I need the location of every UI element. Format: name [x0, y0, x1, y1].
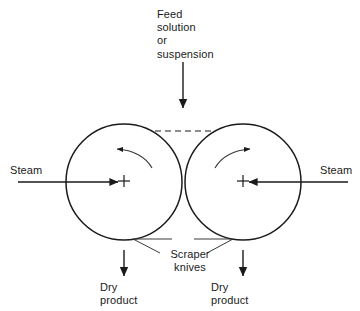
steam-right-label: Steam: [320, 164, 352, 177]
scraper-knives-label: Scraper knives: [160, 248, 220, 274]
steam-left-label: Steam: [10, 164, 42, 177]
left-drum-center-mark: [118, 175, 130, 187]
dry-product-right-label: Dry product: [211, 281, 248, 307]
dry-product-left-label: Dry product: [100, 281, 137, 307]
right-drum-center-mark: [237, 175, 249, 187]
left-drum-rotation-arrow: [117, 149, 152, 168]
scraper-leader-left: [133, 239, 160, 253]
drum-dryer-diagram: Feed solution or suspension Steam Steam …: [0, 0, 360, 311]
feed-label: Feed solution or suspension: [157, 8, 214, 61]
right-drum-rotation-arrow: [215, 149, 250, 168]
